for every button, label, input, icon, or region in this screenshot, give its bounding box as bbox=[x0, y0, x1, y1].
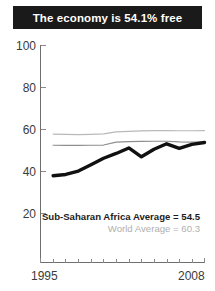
x-tick-marks bbox=[41, 258, 205, 263]
y-axis-label-100: 100 bbox=[16, 39, 36, 53]
plot-area: 100 80 60 40 20 bbox=[0, 30, 215, 291]
legend-world-average: World Average = 60.3 bbox=[108, 223, 200, 234]
x-axis-label-start: 1995 bbox=[31, 269, 58, 283]
series-line-ssa-average bbox=[53, 141, 204, 145]
y-axis-label-80: 80 bbox=[23, 81, 37, 95]
chart-title: The economy is 54.1% free bbox=[33, 12, 183, 24]
legend-ssa-average: Sub-Saharan Africa Average = 54.5 bbox=[42, 211, 201, 222]
y-axis-label-40: 40 bbox=[23, 165, 37, 179]
y-axis-label-20: 20 bbox=[23, 207, 37, 221]
x-axis-label-end: 2008 bbox=[178, 269, 205, 283]
series-line-economic-freedom bbox=[53, 143, 204, 176]
line-chart-svg: 100 80 60 40 20 bbox=[0, 30, 215, 291]
series-line-world-average bbox=[53, 131, 204, 135]
chart-figure: The economy is 54.1% free 100 80 60 40 2… bbox=[0, 0, 215, 291]
y-axis-label-60: 60 bbox=[23, 123, 37, 137]
chart-title-banner: The economy is 54.1% free bbox=[13, 6, 202, 29]
